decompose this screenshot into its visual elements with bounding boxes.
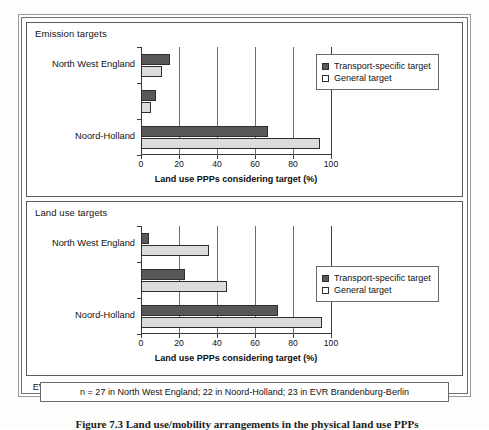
- x-axis-tick-label: 0: [139, 159, 144, 169]
- x-axis-tick-label: 100: [324, 159, 338, 169]
- category-label: Noord-Holland: [75, 310, 135, 320]
- bar-general: [141, 102, 151, 113]
- legend-item-transport-specific: Transport-specific target: [322, 273, 431, 283]
- figure-caption: Figure 7.3 Land use/mobility arrangement…: [38, 418, 456, 430]
- empty-square-icon: [322, 75, 329, 82]
- y-axis-tick: [137, 155, 141, 156]
- x-axis-tick-label: 40: [212, 159, 222, 169]
- x-axis-tick-label: 60: [250, 159, 260, 169]
- bar-group: Noord-Holland: [141, 83, 331, 119]
- panel-title-landuse: Land use targets: [35, 207, 107, 218]
- category-label: North West England: [52, 238, 135, 248]
- plot-area-landuse: 020406080100Land use PPPs considering ta…: [141, 226, 331, 334]
- plot-area-emission: 020406080100Land use PPPs considering ta…: [141, 47, 331, 155]
- filled-square-icon: [322, 63, 329, 70]
- bar-transport-specific: [141, 305, 278, 316]
- panel-title-emission: Emission targets: [35, 28, 107, 39]
- bar-group: EVR Brandenburg-Berlin: [141, 119, 331, 155]
- x-axis-tick-labels: 020406080100: [141, 334, 331, 348]
- bar-transport-specific: [141, 233, 149, 244]
- x-axis-tick-labels: 020406080100: [141, 155, 331, 169]
- bar-group: Noord-Holland: [141, 262, 331, 298]
- x-axis-title: Land use PPPs considering target (%): [155, 174, 318, 184]
- x-axis-title: Land use PPPs considering target (%): [155, 353, 318, 363]
- bar-transport-specific: [141, 54, 170, 65]
- empty-square-icon: [322, 287, 329, 294]
- filled-square-icon: [322, 275, 329, 282]
- category-label: Noord-Holland: [75, 131, 135, 141]
- y-axis-tick: [137, 47, 141, 48]
- bar-transport-specific: [141, 126, 268, 137]
- legend-item-general: General target: [322, 285, 431, 295]
- legend-label-general: General target: [334, 285, 392, 295]
- x-axis-tick-label: 100: [324, 338, 338, 348]
- x-axis-tick-label: 80: [288, 338, 298, 348]
- x-axis-tick-label: 20: [174, 159, 184, 169]
- bar-general: [141, 281, 227, 292]
- legend-label-general: General target: [334, 73, 392, 83]
- legend-item-transport-specific: Transport-specific target: [322, 61, 431, 71]
- sample-size-note: n = 27 in North West England; 22 in Noor…: [40, 382, 449, 402]
- x-axis-tick-label: 40: [212, 338, 222, 348]
- legend-landuse: Transport-specific target General target: [316, 266, 439, 302]
- x-axis-tick-label: 60: [250, 338, 260, 348]
- bar-transport-specific: [141, 269, 185, 280]
- panel-emission-targets: Emission targets 020406080100Land use PP…: [26, 22, 463, 197]
- legend-item-general: General target: [322, 73, 431, 83]
- legend-emission: Transport-specific target General target: [316, 54, 439, 90]
- bar-transport-specific: [141, 90, 156, 101]
- bar-general: [141, 138, 320, 149]
- category-label: North West England: [52, 59, 135, 69]
- bar-general: [141, 66, 162, 77]
- legend-label-transport-specific: Transport-specific target: [334, 273, 431, 283]
- x-axis-tick-label: 80: [288, 159, 298, 169]
- y-axis-tick: [137, 334, 141, 335]
- bar-general: [141, 317, 322, 328]
- y-axis-tick: [137, 226, 141, 227]
- bar-group: EVR Brandenburg-Berlin: [141, 298, 331, 334]
- x-axis-tick-label: 0: [139, 338, 144, 348]
- bar-group: North West England: [141, 226, 331, 262]
- legend-label-transport-specific: Transport-specific target: [334, 61, 431, 71]
- x-axis-tick-label: 20: [174, 338, 184, 348]
- bar-group: North West England: [141, 47, 331, 83]
- bar-general: [141, 245, 209, 256]
